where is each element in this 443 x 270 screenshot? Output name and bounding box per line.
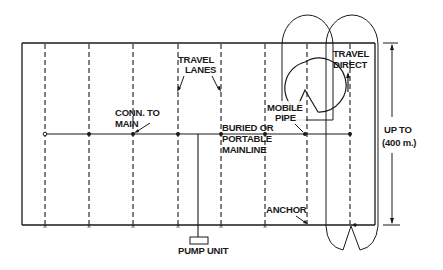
mainline-callout: BURIED OR PORTABLE MAINLINE — [222, 122, 274, 155]
conn-to-main-callout: CONN. TO MAIN — [115, 107, 160, 133]
length-dimension: UP TO (400 m.) — [382, 43, 416, 225]
mainline-label-2: PORTABLE — [222, 133, 272, 144]
anchor-callout: ANCHOR — [266, 204, 308, 224]
svg-text:x: x — [87, 222, 91, 229]
travel-direct-label-2: DIRECT — [333, 59, 368, 70]
travel-lanes-callout: TRAVEL LANES — [177, 54, 221, 92]
mainline-label-1: BURIED OR — [222, 122, 274, 133]
irrigation-layout-diagram: x x x x x x PUMP UNIT TRAVEL LANES CONN.… — [0, 0, 443, 270]
conn-to-main-label-1: CONN. TO — [115, 107, 160, 118]
mobile-pipe-label-2: PIPE — [275, 112, 296, 123]
travel-direct-label-1: TRAVEL — [333, 48, 369, 59]
svg-text:x: x — [176, 222, 180, 229]
travel-direction-callout: TRAVEL DIRECT — [333, 48, 369, 92]
arrow-icon — [295, 124, 303, 132]
mainline-label-3: MAINLINE — [222, 144, 266, 155]
travel-lanes-label-2: LANES — [185, 64, 216, 75]
svg-text:x: x — [43, 222, 47, 229]
svg-text:x: x — [131, 222, 135, 229]
anchor-label: ANCHOR — [266, 204, 307, 215]
svg-text:x: x — [219, 222, 223, 229]
dimension-label-2: (400 m.) — [382, 137, 416, 148]
conn-to-main-label-2: MAIN — [115, 118, 139, 129]
svg-text:x: x — [263, 222, 267, 229]
pump-unit-label: PUMP UNIT — [178, 245, 229, 256]
dimension-label-1: UP TO — [384, 124, 412, 135]
